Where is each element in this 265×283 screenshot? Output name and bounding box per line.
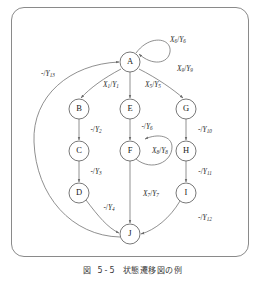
node-H-label: H bbox=[183, 145, 189, 155]
edge-label-A-E: X5/Y5 bbox=[144, 80, 161, 89]
edge-label-F-F: X8/Y8 bbox=[151, 146, 168, 155]
edge-label-F-J: X7/Y7 bbox=[142, 189, 159, 198]
edge-label-A-A: X6/Y6 bbox=[169, 35, 186, 44]
node-G[interactable]: G bbox=[176, 99, 196, 119]
edge-label-J-A: -/Y13 bbox=[41, 69, 55, 78]
node-D-label: D bbox=[76, 187, 82, 197]
edge-label-I-J: -/Y12 bbox=[198, 213, 212, 222]
edge-label-D-J: -/Y4 bbox=[103, 203, 115, 212]
node-H[interactable]: H bbox=[176, 141, 196, 161]
node-I-label: I bbox=[185, 187, 188, 197]
figure-root: A B C D E F G bbox=[0, 0, 265, 283]
caption-text: 状態遷移図の例 bbox=[123, 266, 183, 275]
state-transition-diagram: A B C D E F G bbox=[0, 0, 265, 283]
edge-label-C-D: -/Y3 bbox=[90, 167, 102, 176]
node-E-label: E bbox=[127, 103, 132, 113]
edge-label-E-F: -/Y6 bbox=[141, 122, 153, 131]
node-C[interactable]: C bbox=[69, 141, 89, 161]
edge-label-H-I: -/Y11 bbox=[198, 167, 212, 176]
node-F-label: F bbox=[128, 145, 133, 155]
node-B-label: B bbox=[76, 103, 82, 113]
node-A-label: A bbox=[127, 56, 134, 66]
edge-label-G-H: -/Y10 bbox=[198, 125, 212, 134]
node-I[interactable]: I bbox=[176, 183, 196, 203]
node-J[interactable]: J bbox=[120, 224, 140, 244]
node-B[interactable]: B bbox=[69, 99, 89, 119]
nodes-layer: A B C D E F G bbox=[69, 52, 196, 244]
edge-label-B-C: -/Y2 bbox=[90, 125, 102, 134]
figure-caption: 図 5-5状態遷移図の例 bbox=[0, 264, 265, 275]
node-F[interactable]: F bbox=[120, 141, 140, 161]
caption-number: 図 5-5 bbox=[83, 266, 117, 275]
node-E[interactable]: E bbox=[120, 99, 140, 119]
node-D[interactable]: D bbox=[69, 183, 89, 203]
edge-A-A bbox=[136, 40, 170, 62]
node-C-label: C bbox=[76, 145, 82, 155]
edge-label-A-G: X9/Y9 bbox=[176, 64, 193, 73]
node-A[interactable]: A bbox=[120, 52, 140, 72]
edge-label-A-B: X1/Y1 bbox=[102, 80, 119, 89]
edge-I-J bbox=[141, 201, 180, 234]
node-G-label: G bbox=[183, 103, 189, 113]
